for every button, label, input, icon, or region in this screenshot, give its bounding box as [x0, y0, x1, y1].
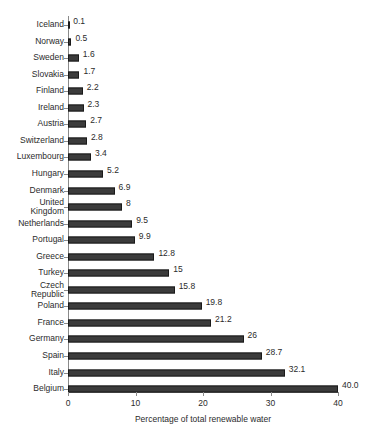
bar: [68, 88, 83, 95]
bar-value-label: 12.8: [158, 248, 175, 258]
bar: [68, 336, 244, 343]
bar: [68, 38, 71, 45]
x-axis-tick: [136, 392, 137, 396]
category-label: Sweden: [0, 53, 64, 62]
category-label: Austria: [0, 120, 64, 129]
bar: [68, 253, 154, 260]
x-axis-tick-label: 40: [333, 398, 342, 408]
category-label: Italy: [0, 368, 64, 377]
bar-value-label: 1.7: [83, 66, 95, 76]
category-label: Poland: [0, 302, 64, 311]
bar-value-label: 21.2: [215, 314, 232, 324]
bar-value-label: 8: [126, 198, 131, 208]
category-label: Finland: [0, 87, 64, 96]
bar: [68, 237, 135, 244]
bar-value-label: 6.9: [119, 182, 131, 192]
bar: [68, 187, 115, 194]
plot-area: Iceland0.1Norway0.5Sweden1.6Slovakia1.7F…: [0, 0, 382, 435]
bar-value-label: 15.8: [179, 281, 196, 291]
x-axis-tick-label: 10: [131, 398, 140, 408]
bar: [68, 55, 79, 62]
category-label: Switzerland: [0, 136, 64, 145]
bar-value-label: 28.7: [266, 347, 283, 357]
category-label: Ireland: [0, 103, 64, 112]
bar-value-label: 5.2: [107, 165, 119, 175]
bar: [68, 286, 175, 293]
bar-value-label: 15: [173, 264, 182, 274]
bar: [68, 303, 202, 310]
bar: [68, 104, 84, 111]
x-axis-tick: [271, 392, 272, 396]
category-label: Norway: [0, 37, 64, 46]
x-axis-tick: [203, 392, 204, 396]
category-label: Spain: [0, 351, 64, 360]
bar-value-label: 0.1: [73, 16, 85, 26]
bar: [68, 270, 169, 277]
category-label: Luxembourg: [0, 153, 64, 162]
category-label: Iceland: [0, 20, 64, 29]
bar-value-label: 2.3: [88, 99, 100, 109]
bar-value-label: 3.4: [95, 148, 107, 158]
bar-value-label: 2.8: [91, 132, 103, 142]
bar: [68, 369, 285, 376]
category-label: Denmark: [0, 186, 64, 195]
bar-value-label: 32.1: [289, 364, 306, 374]
bar: [68, 71, 79, 78]
bar: [68, 204, 122, 211]
bar-value-label: 9.5: [136, 215, 148, 225]
bar-value-label: 2.2: [87, 82, 99, 92]
category-label: Greece: [0, 252, 64, 261]
x-axis-tick: [68, 392, 69, 396]
bar: [68, 22, 70, 29]
bar: [68, 319, 211, 326]
category-label: Belgium: [0, 384, 64, 393]
bar: [68, 121, 86, 128]
category-label: France: [0, 318, 64, 327]
bar-value-label: 26: [248, 330, 257, 340]
bar-value-label: 19.8: [206, 297, 223, 307]
x-axis-tick-label: 0: [66, 398, 71, 408]
bar: [68, 353, 262, 360]
bar-chart: Iceland0.1Norway0.5Sweden1.6Slovakia1.7F…: [0, 0, 382, 435]
bar: [68, 220, 132, 227]
bar: [68, 170, 103, 177]
bar-row: Belgium40.0: [0, 379, 382, 399]
category-label: Turkey: [0, 269, 64, 278]
x-axis-tick-label: 20: [198, 398, 207, 408]
x-axis-tick: [338, 392, 339, 396]
category-label: Netherlands: [0, 219, 64, 228]
category-label: Slovakia: [0, 70, 64, 79]
category-label: Germany: [0, 335, 64, 344]
x-axis-title: Percentage of total renewable water: [0, 414, 382, 424]
bar-value-label: 2.7: [90, 115, 102, 125]
category-label: Portugal: [0, 236, 64, 245]
bar: [68, 154, 91, 161]
bar-value-label: 9.9: [139, 231, 151, 241]
bar: [68, 137, 87, 144]
bar-value-label: 40.0: [342, 380, 359, 390]
bar-value-label: 1.6: [83, 49, 95, 59]
category-label: Hungary: [0, 169, 64, 178]
bar-value-label: 0.5: [75, 33, 87, 43]
x-axis-tick-label: 30: [266, 398, 275, 408]
